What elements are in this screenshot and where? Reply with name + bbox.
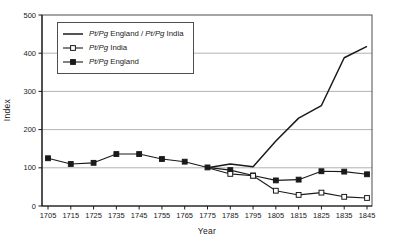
series-england-marker-1735 (114, 152, 119, 157)
series-england-marker-1805 (273, 178, 278, 183)
legend-label-ratio: Pt/Pg England / Pt/Pg India (89, 29, 184, 39)
x-tick-label-1765: 1765 (176, 211, 193, 220)
series-india-marker-1785 (228, 172, 233, 177)
x-tick-label-1815: 1815 (290, 211, 307, 220)
y-tick-label-400: 400 (23, 49, 36, 58)
x-tick-label-1835: 1835 (336, 211, 353, 220)
series-england-marker-1755 (160, 157, 165, 162)
legend-item-india: Pt/Pg India (63, 41, 184, 55)
x-tick-label-1735: 1735 (108, 211, 125, 220)
x-tick-label-1725: 1725 (85, 211, 102, 220)
series-england-marker-1845 (365, 172, 370, 177)
series-england-marker-1715 (68, 162, 73, 167)
y-tick-label-0: 0 (32, 202, 36, 211)
series-india-marker-1835 (342, 194, 347, 199)
legend-box: Pt/Pg England / Pt/Pg IndiaPt/Pg IndiaPt… (57, 22, 194, 74)
x-tick-label-1745: 1745 (131, 211, 148, 220)
series-ratio-line (208, 46, 368, 167)
series-india-marker-1805 (273, 188, 278, 193)
series-england-marker-1705 (46, 156, 51, 161)
series-india-marker-1795 (251, 173, 256, 178)
legend-filled-square-icon (63, 57, 83, 67)
x-tick-label-1825: 1825 (313, 211, 330, 220)
x-tick-label-1705: 1705 (40, 211, 57, 220)
legend-label-india: Pt/Pg India (89, 43, 127, 53)
series-england-marker-1745 (137, 152, 142, 157)
y-tick-label-300: 300 (23, 87, 36, 96)
series-england-marker-1835 (342, 169, 347, 174)
x-tick-label-1755: 1755 (154, 211, 171, 220)
legend-item-ratio: Pt/Pg England / Pt/Pg India (63, 27, 184, 41)
series-india-marker-1845 (365, 196, 370, 201)
legend-open-square-icon (63, 43, 83, 53)
line-chart: 0100200300400500170517151725173517451755… (0, 0, 397, 243)
legend-item-england: Pt/Pg England (63, 55, 184, 69)
series-india-marker-1815 (296, 193, 301, 198)
y-tick-label-200: 200 (23, 125, 36, 134)
x-tick-label-1715: 1715 (62, 211, 79, 220)
x-tick-label-1805: 1805 (268, 211, 285, 220)
legend-line-icon (63, 29, 83, 39)
x-tick-label-1795: 1795 (245, 211, 262, 220)
y-axis-title: Index (2, 85, 12, 135)
series-england-marker-1725 (91, 160, 96, 165)
x-tick-label-1775: 1775 (199, 211, 216, 220)
legend-label-england: Pt/Pg England (89, 57, 139, 67)
series-england-marker-1765 (182, 159, 187, 164)
series-england-marker-1775 (205, 165, 210, 170)
series-india-marker-1825 (319, 190, 324, 195)
x-tick-label-1845: 1845 (359, 211, 376, 220)
x-axis-title: Year (42, 226, 372, 236)
y-tick-label-500: 500 (23, 11, 36, 20)
x-tick-label-1785: 1785 (222, 211, 239, 220)
y-tick-label-100: 100 (23, 163, 36, 172)
series-england-marker-1825 (319, 169, 324, 174)
series-england-marker-1815 (296, 177, 301, 182)
